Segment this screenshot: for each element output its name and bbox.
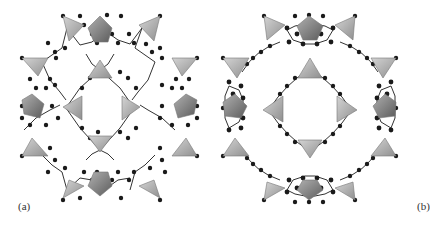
panel-label-a: (a) [18, 200, 30, 212]
bond-network-b [225, 24, 395, 196]
structure-diagram-b [195, 0, 423, 229]
panel-a: (a) [0, 0, 211, 229]
atoms-a [20, 13, 199, 202]
atoms-b [221, 13, 398, 204]
structure-diagram-a [0, 0, 211, 229]
panel-label-b: (b) [417, 200, 430, 212]
panel-b: (b) [195, 0, 423, 229]
